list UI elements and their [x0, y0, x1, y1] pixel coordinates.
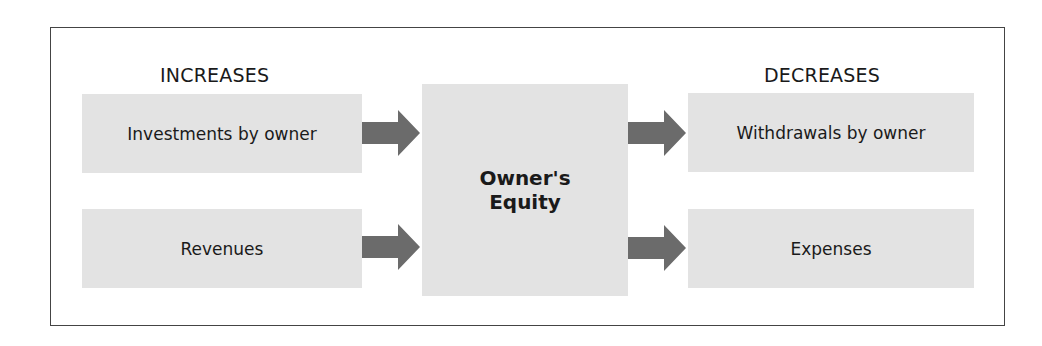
revenues-box: Revenues — [82, 209, 362, 288]
owners-equity-line2: Equity — [489, 190, 561, 214]
arrow-right-icon — [362, 110, 422, 156]
arrow-right-icon — [628, 110, 688, 156]
owners-equity-line1: Owner's — [479, 166, 570, 190]
withdrawals-by-owner-label: Withdrawals by owner — [737, 123, 926, 143]
expenses-box: Expenses — [688, 209, 974, 288]
investments-by-owner-label: Investments by owner — [127, 124, 316, 144]
owners-equity-box: Owner's Equity — [422, 84, 628, 296]
arrow-right-icon — [362, 224, 422, 270]
investments-by-owner-box: Investments by owner — [82, 94, 362, 173]
arrow-right-icon — [628, 225, 688, 271]
withdrawals-by-owner-box: Withdrawals by owner — [688, 93, 974, 172]
decreases-heading: DECREASES — [764, 64, 880, 86]
revenues-label: Revenues — [181, 239, 264, 259]
expenses-label: Expenses — [791, 239, 872, 259]
increases-heading: INCREASES — [160, 64, 269, 86]
